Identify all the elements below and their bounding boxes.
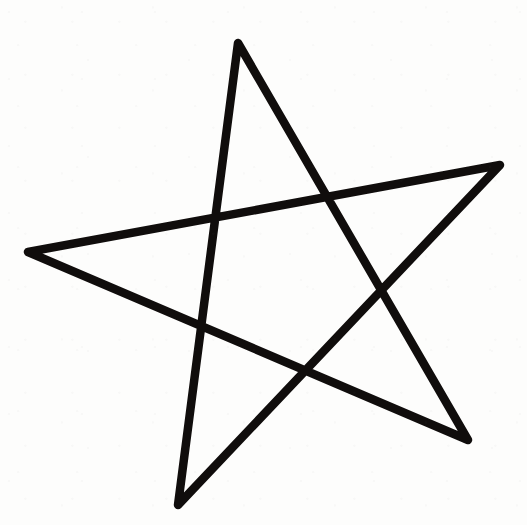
- drawing-canvas: Hand-drawn five-pointed star: [0, 0, 527, 525]
- five-pointed-star-path: [28, 43, 500, 505]
- star-svg: Hand-drawn five-pointed star: [0, 0, 527, 525]
